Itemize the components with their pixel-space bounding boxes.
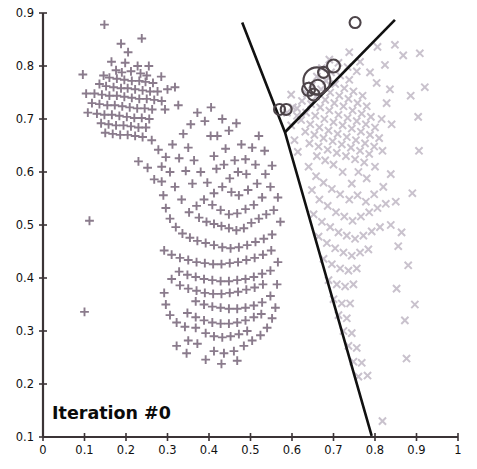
data-point-plus <box>273 258 282 267</box>
data-point-cross <box>331 100 338 107</box>
data-point-plus <box>241 275 250 284</box>
data-point-plus <box>217 222 226 231</box>
series-class-plus <box>78 20 284 368</box>
data-point-cross <box>393 285 400 292</box>
data-point-cross <box>353 265 360 272</box>
data-point-plus <box>120 92 129 101</box>
data-point-plus <box>239 224 248 233</box>
data-point-cross <box>330 161 337 168</box>
data-point-plus <box>233 304 242 313</box>
data-point-plus <box>88 99 97 108</box>
data-point-plus <box>112 66 121 75</box>
data-point-cross <box>338 300 345 307</box>
data-point-plus <box>184 284 193 293</box>
data-point-plus <box>233 276 242 285</box>
data-point-plus <box>201 329 210 338</box>
data-point-plus <box>185 208 194 217</box>
data-point-cross <box>344 114 351 121</box>
data-point-cross <box>366 131 373 138</box>
data-point-cross <box>340 249 347 256</box>
scatter-plot-figure: 0.10.20.30.40.50.60.70.80.900.10.20.30.4… <box>0 0 477 469</box>
data-point-plus <box>193 339 202 348</box>
data-point-cross <box>324 146 331 153</box>
data-point-plus <box>249 273 258 282</box>
x-axis-tick-label: 0.7 <box>324 443 342 457</box>
data-point-plus <box>271 303 280 312</box>
data-point-plus <box>221 144 230 153</box>
data-point-plus <box>82 89 91 98</box>
data-point-cross <box>386 86 393 93</box>
data-point-cross <box>322 96 329 103</box>
data-point-cross <box>371 143 378 150</box>
data-point-cross <box>343 315 350 322</box>
data-point-plus <box>154 145 163 154</box>
data-point-plus <box>171 223 180 232</box>
data-point-plus <box>157 177 166 186</box>
data-point-plus <box>212 164 221 173</box>
data-point-plus <box>250 283 259 292</box>
data-point-plus <box>241 205 250 214</box>
x-axis-tick-label: 0.9 <box>407 443 425 457</box>
decision-boundary <box>242 20 395 436</box>
data-point-plus <box>218 243 227 252</box>
data-point-plus <box>230 347 239 356</box>
data-point-plus <box>206 132 215 141</box>
data-point-plus <box>233 209 242 218</box>
data-point-cross <box>316 124 323 131</box>
data-point-plus <box>201 355 210 364</box>
data-point-plus <box>181 322 190 331</box>
data-point-cross <box>400 52 407 59</box>
data-point-plus <box>143 163 152 172</box>
data-point-plus <box>135 76 144 85</box>
data-point-cross <box>288 91 295 98</box>
data-point-plus <box>144 62 153 71</box>
data-point-cross <box>335 111 342 118</box>
data-point-cross <box>324 202 331 209</box>
data-point-cross <box>380 183 387 190</box>
data-point-cross <box>291 137 298 144</box>
y-axis-tick-label: 0.2 <box>16 377 34 391</box>
data-point-plus <box>232 119 241 128</box>
data-point-cross <box>371 191 378 198</box>
data-point-plus <box>225 277 234 286</box>
data-point-cross <box>336 92 343 99</box>
data-point-plus <box>104 120 113 129</box>
data-point-cross <box>371 163 378 170</box>
data-point-cross <box>362 121 369 128</box>
data-point-cross <box>328 185 335 192</box>
data-point-plus <box>193 108 202 117</box>
data-point-plus <box>249 301 258 310</box>
data-point-cross <box>307 121 314 128</box>
data-point-plus <box>242 170 251 179</box>
data-point-plus <box>216 303 225 312</box>
data-point-plus <box>268 161 277 170</box>
data-point-plus <box>210 152 219 161</box>
data-point-cross <box>333 281 340 288</box>
data-point-plus <box>137 34 146 43</box>
data-point-cross <box>374 43 381 50</box>
data-point-plus <box>192 202 201 211</box>
data-point-plus <box>157 162 166 171</box>
data-point-cross <box>374 204 381 211</box>
data-point-cross <box>302 128 309 135</box>
data-point-plus <box>225 304 234 313</box>
data-point-plus <box>182 349 191 358</box>
data-point-plus <box>208 318 217 327</box>
data-point-plus <box>266 292 275 301</box>
data-point-plus <box>234 287 243 296</box>
plot-canvas: 0.10.20.30.40.50.60.70.80.900.10.20.30.4… <box>0 0 477 469</box>
data-point-cross <box>354 192 361 199</box>
data-point-cross <box>310 211 317 218</box>
data-point-cross <box>330 119 337 126</box>
data-point-cross <box>359 92 366 99</box>
data-point-cross <box>308 186 315 193</box>
data-point-cross <box>421 84 428 91</box>
data-point-plus <box>166 168 175 177</box>
data-point-cross <box>415 113 422 120</box>
data-point-plus <box>261 170 270 179</box>
data-point-plus <box>176 253 185 262</box>
data-point-cross <box>358 110 365 117</box>
data-point-plus <box>184 256 193 265</box>
data-point-plus <box>101 128 110 137</box>
data-point-cross <box>345 267 352 274</box>
